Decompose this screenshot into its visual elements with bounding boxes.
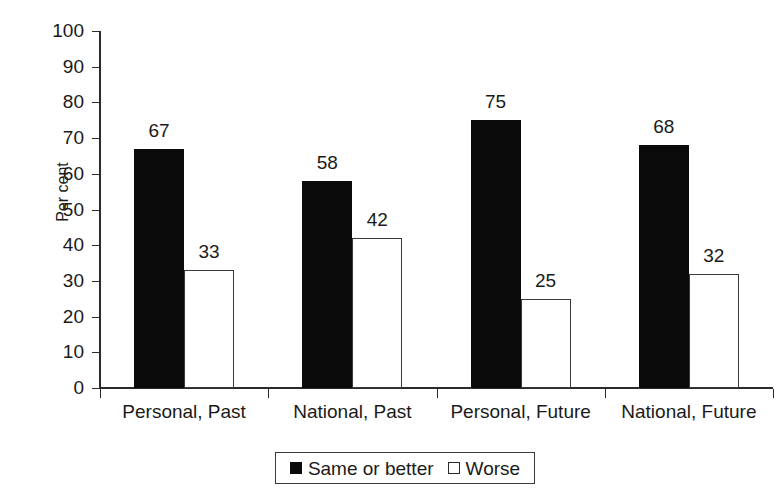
- bar: [184, 270, 234, 388]
- legend-item-same-or-better: Same or better: [290, 459, 434, 478]
- legend: Same or better Worse: [275, 452, 535, 484]
- y-axis-tick-label: 40: [10, 235, 84, 254]
- bar-value-label: 25: [506, 271, 586, 290]
- y-axis-tick-label: 50: [10, 200, 84, 219]
- bar: [689, 274, 739, 388]
- bar: [639, 145, 689, 388]
- bar-chart: Per cent 1009080706050403020100 67335842…: [0, 0, 779, 502]
- y-axis-tick: [92, 317, 100, 318]
- y-axis-tick-label: 80: [10, 92, 84, 111]
- x-axis-category-label: Personal, Future: [437, 400, 605, 424]
- y-axis-tick-label: 30: [10, 271, 84, 290]
- plot-area: [100, 31, 773, 388]
- bar: [134, 149, 184, 388]
- y-axis-tick: [92, 31, 100, 32]
- y-axis-tick-label: 20: [10, 307, 84, 326]
- x-axis-tick: [773, 389, 774, 398]
- y-axis-tick: [92, 281, 100, 282]
- bar-value-label: 58: [287, 153, 367, 172]
- bar-value-label: 75: [456, 92, 536, 111]
- y-axis-title: Per cent: [49, 137, 77, 247]
- y-axis-tick: [92, 67, 100, 68]
- x-axis-category-label: National, Past: [268, 400, 436, 424]
- y-axis-tick-label: 70: [10, 128, 84, 147]
- x-axis-category-label: Personal, Past: [100, 400, 268, 424]
- legend-label: Same or better: [308, 459, 434, 478]
- x-axis-tick: [437, 389, 438, 398]
- y-axis-tick-label: 90: [10, 57, 84, 76]
- y-axis-tick-label: 0: [10, 378, 84, 397]
- x-axis-tick: [100, 389, 101, 398]
- bar: [521, 299, 571, 388]
- bar-value-label: 33: [169, 242, 249, 261]
- legend-item-worse: Worse: [448, 459, 521, 478]
- x-axis-tick: [605, 389, 606, 398]
- bar: [352, 238, 402, 388]
- y-axis-tick-label: 10: [10, 342, 84, 361]
- bar-value-label: 67: [119, 121, 199, 140]
- y-axis-tick: [92, 138, 100, 139]
- filled-square-icon: [290, 462, 302, 474]
- bar-value-label: 68: [624, 117, 704, 136]
- y-axis-tick: [92, 102, 100, 103]
- bar: [471, 120, 521, 388]
- y-axis-tick: [92, 388, 100, 389]
- x-axis-category-label: National, Future: [605, 400, 773, 424]
- open-square-icon: [448, 462, 460, 474]
- y-axis-tick: [92, 210, 100, 211]
- y-axis-tick: [92, 352, 100, 353]
- y-axis-tick-label: 60: [10, 164, 84, 183]
- y-axis-tick: [92, 174, 100, 175]
- bar-value-label: 32: [674, 246, 754, 265]
- x-axis-tick: [268, 389, 269, 398]
- y-axis-tick-label: 100: [10, 21, 84, 40]
- legend-label: Worse: [466, 459, 521, 478]
- bar-value-label: 42: [337, 210, 417, 229]
- y-axis-tick: [92, 245, 100, 246]
